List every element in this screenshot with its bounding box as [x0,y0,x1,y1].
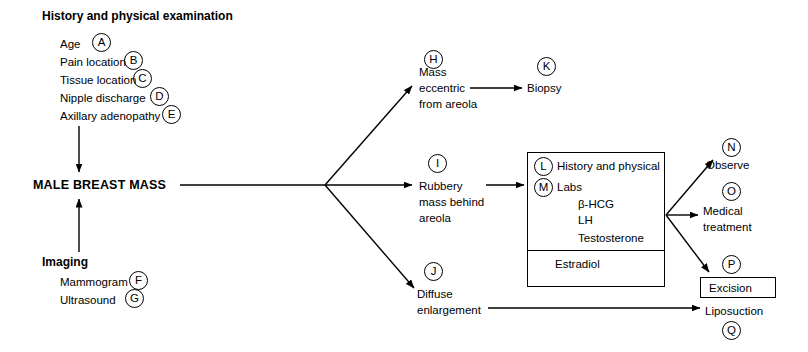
outcome-label-medical-line2: treatment [703,219,752,235]
branch-j-line2: enlargement [417,302,481,318]
node-circle-f: F [129,271,148,290]
node-circle-g: G [125,289,144,308]
branch-i-line1: Rubbery [419,178,462,194]
connector-layer [0,0,808,352]
history-item-label-b: Pain location [60,54,126,70]
history-heading: History and physical examination [42,8,233,24]
workup-box-divider [527,250,665,251]
lab-item-bhcg: β-HCG [578,196,614,212]
workup-row-label-m: Labs [557,179,582,195]
node-circle-k: K [537,57,556,76]
outcome-label-observe: Observe [706,157,749,173]
arrow-branch-to-h [325,86,412,185]
node-circle-l: L [534,157,553,176]
branch-i-line3: areola [419,210,451,226]
arrow-branch-to-j [325,185,414,288]
branch-j-line1: Diffuse [417,286,453,302]
node-circle-p: P [722,255,741,274]
imaging-heading: Imaging [42,254,88,270]
flowchart-canvas: History and physical examination Age A P… [0,0,808,352]
central-node-label: MALE BREAST MASS [33,177,166,193]
branch-i-line2: mass behind [419,194,484,210]
outcome-label-liposuction: Liposuction [705,303,763,319]
workup-row-label-l: History and physical [557,158,660,174]
history-item-label-c: Tissue location [60,72,136,88]
node-circle-a: A [92,33,111,52]
lab-item-lh: LH [578,212,593,228]
branch-h-line3: from areola [419,96,477,112]
history-item-label-d: Nipple discharge [60,90,146,106]
outcome-label-medical-line1: Medical [703,203,743,219]
imaging-item-label-f: Mammogram [60,274,128,290]
node-circle-e: E [162,105,181,124]
node-circle-q: Q [722,321,741,340]
lab-item-testosterone: Testosterone [578,230,644,246]
node-circle-b: B [124,51,143,70]
node-circle-c: C [133,69,152,88]
node-circle-m: M [534,178,553,197]
node-circle-d: D [150,87,169,106]
history-item-label-a: Age [60,36,80,52]
workup-lower-cell-label: Estradiol [555,256,600,272]
node-circle-o: O [722,182,741,201]
node-circle-i: I [428,154,447,173]
branch-h-line1: Mass [419,64,446,80]
node-circle-n: N [722,138,741,157]
biopsy-label: Biopsy [527,80,562,96]
imaging-item-label-g: Ultrasound [60,292,116,308]
node-circle-j: J [424,262,443,281]
outcome-label-excision: Excision [709,280,752,296]
history-item-label-e: Axillary adenopathy [60,108,160,124]
branch-h-line2: eccentric [419,80,465,96]
